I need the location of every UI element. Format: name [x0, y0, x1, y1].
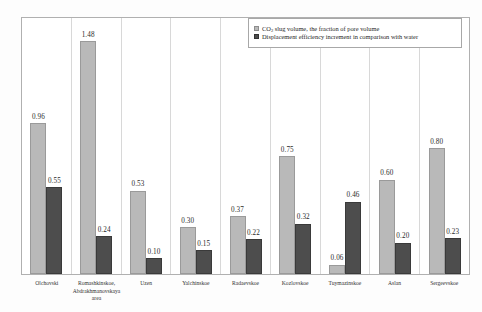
bar[interactable] [295, 224, 311, 274]
bar-value-label: 0.37 [231, 207, 244, 214]
bar-wrapper: 0.96 [30, 123, 46, 274]
bar-wrapper: 0.32 [295, 224, 311, 274]
bar-group: 0.750.32 [271, 18, 320, 274]
bar-value-label: 0.32 [297, 214, 310, 221]
chart-page: 0.960.551.480.240.530.100.300.150.370.22… [0, 0, 482, 312]
bar[interactable] [329, 265, 345, 274]
dark-square-marker-icon [254, 34, 259, 39]
category-column: 0.800.23 [420, 18, 469, 274]
bar-group: 0.960.55 [22, 18, 71, 274]
bar-value-label: 0.06 [331, 255, 344, 262]
bar-wrapper: 0.46 [345, 202, 361, 274]
bar-value-label: 0.22 [247, 230, 260, 237]
bar-wrapper: 0.53 [130, 191, 146, 274]
x-axis-label: Sergeevskoe [419, 280, 469, 303]
x-axis-label: Tuymazinskoe [320, 280, 370, 303]
chart-legend: CO2 slug volume, the fraction of pore vo… [248, 18, 462, 48]
bar-value-label: 1.48 [82, 32, 95, 39]
bar-value-label: 0.30 [181, 218, 194, 225]
bar[interactable] [180, 227, 196, 274]
bar-value-label: 0.10 [147, 249, 160, 256]
legend-label-co2-slug-volume: CO2 slug volume, the fraction of pore vo… [262, 25, 379, 32]
x-axis-label: Aslan [370, 280, 420, 303]
category-column: 0.530.10 [122, 18, 172, 274]
bar-wrapper: 0.60 [379, 180, 395, 275]
bar-value-label: 0.96 [32, 114, 45, 121]
bar-value-label: 0.60 [380, 170, 393, 177]
bar-group: 0.600.20 [370, 18, 419, 274]
x-axis-labels: OlchovskiRomashkinskoe, Abdrakhmanovskay… [22, 280, 469, 303]
bar-value-label: 0.24 [98, 227, 111, 234]
bar-group: 0.300.15 [171, 18, 220, 274]
legend-label-text-pre-0: CO [262, 25, 271, 32]
bar[interactable] [46, 187, 62, 274]
bar-value-label: 0.53 [131, 181, 144, 188]
bar-wrapper: 0.20 [395, 243, 411, 275]
bar-value-label: 0.20 [396, 233, 409, 240]
bar-wrapper: 0.55 [46, 187, 62, 274]
bar[interactable] [146, 258, 162, 274]
x-axis-label: Yalchinskoe [171, 280, 221, 303]
bar-value-label: 0.80 [430, 139, 443, 146]
light-square-marker-icon [254, 26, 259, 31]
bar-group: 0.370.22 [221, 18, 270, 274]
bar-wrapper: 0.80 [429, 148, 445, 274]
bar-value-label: 0.55 [48, 178, 61, 185]
bar[interactable] [230, 216, 246, 274]
category-column: 0.060.46 [321, 18, 371, 274]
bar-group: 0.800.23 [420, 18, 469, 274]
bar[interactable] [246, 239, 262, 274]
bar-value-label: 0.75 [281, 147, 294, 154]
x-axis-label: Kozlovskoe [270, 280, 320, 303]
bar[interactable] [429, 148, 445, 274]
bar[interactable] [345, 202, 361, 274]
x-axis-label: Uzen [121, 280, 171, 303]
bar-wrapper: 0.37 [230, 216, 246, 274]
bar-wrapper: 0.15 [196, 250, 212, 274]
bar-wrapper: 0.23 [445, 238, 461, 274]
legend-item-displacement-efficiency: Displacement efficiency increment in com… [254, 33, 456, 40]
category-column: 0.300.15 [171, 18, 221, 274]
legend-label-text-post-0: slug volume, the fraction of pore volume [273, 25, 379, 32]
bar[interactable] [445, 238, 461, 274]
bar[interactable] [379, 180, 395, 275]
category-column: 0.750.32 [271, 18, 321, 274]
x-axis-label: Radaevskoe [221, 280, 271, 303]
bar-group: 1.480.24 [72, 18, 121, 274]
bar-value-label: 0.46 [347, 192, 360, 199]
bar-wrapper: 1.48 [80, 41, 96, 274]
bar-wrapper: 0.75 [279, 156, 295, 274]
bar[interactable] [96, 236, 112, 274]
legend-item-co2-slug-volume: CO2 slug volume, the fraction of pore vo… [254, 25, 456, 32]
bar-wrapper: 0.06 [329, 265, 345, 274]
bar-wrapper: 0.22 [246, 239, 262, 274]
category-column: 0.600.20 [370, 18, 420, 274]
bar[interactable] [279, 156, 295, 274]
bar-group: 0.060.46 [321, 18, 370, 274]
bar[interactable] [130, 191, 146, 274]
bar-wrapper: 0.24 [96, 236, 112, 274]
x-axis-label: Olchovski [22, 280, 72, 303]
plot-area: 0.960.551.480.240.530.100.300.150.370.22… [22, 18, 469, 274]
legend-label-displacement-efficiency: Displacement efficiency increment in com… [262, 33, 418, 40]
bar[interactable] [196, 250, 212, 274]
category-column: 1.480.24 [72, 18, 122, 274]
bar-value-label: 0.15 [197, 241, 210, 248]
bar[interactable] [395, 243, 411, 275]
legend-label-subscript-0: 2 [271, 28, 273, 33]
bar[interactable] [30, 123, 46, 274]
category-column: 0.960.55 [22, 18, 72, 274]
bar-group: 0.530.10 [122, 18, 171, 274]
bar-wrapper: 0.10 [146, 258, 162, 274]
bar-wrapper: 0.30 [180, 227, 196, 274]
bar-value-label: 0.23 [446, 229, 459, 236]
bar[interactable] [80, 41, 96, 274]
x-axis-label: Romashkinskoe, Abdrakhmanovskaya area [72, 280, 122, 303]
category-column: 0.370.22 [221, 18, 271, 274]
